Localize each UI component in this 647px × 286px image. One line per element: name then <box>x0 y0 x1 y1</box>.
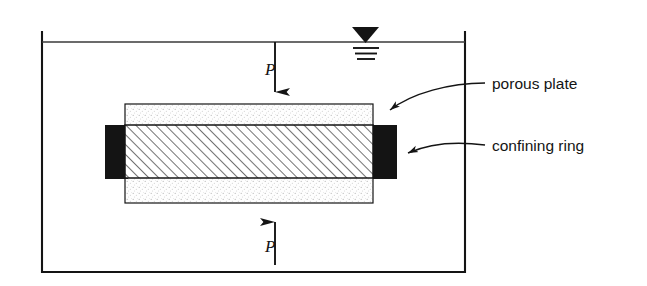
oedometer-diagram: P P porous plate confining ring <box>0 0 647 286</box>
bottom-load-label: P <box>264 237 275 256</box>
confining-ring-label: confining ring <box>492 137 584 154</box>
figure-root: P P porous plate confining ring <box>0 0 647 286</box>
water-table-symbol <box>352 27 379 59</box>
soil-specimen <box>125 125 373 178</box>
porous-plate-callout: porous plate <box>390 75 577 110</box>
confining-ring-leader-line <box>408 143 485 153</box>
top-load-arrow: P <box>264 42 275 92</box>
water-table-triangle <box>352 27 379 43</box>
specimen-rect <box>125 125 373 178</box>
confining-ring-callout: confining ring <box>408 137 584 154</box>
porous-plate-label: porous plate <box>492 75 577 92</box>
top-load-label: P <box>264 60 275 79</box>
porous-plate-leader-line <box>390 83 485 110</box>
bottom-load-arrow: P <box>264 222 275 265</box>
confining-ring-right-block <box>373 125 397 179</box>
